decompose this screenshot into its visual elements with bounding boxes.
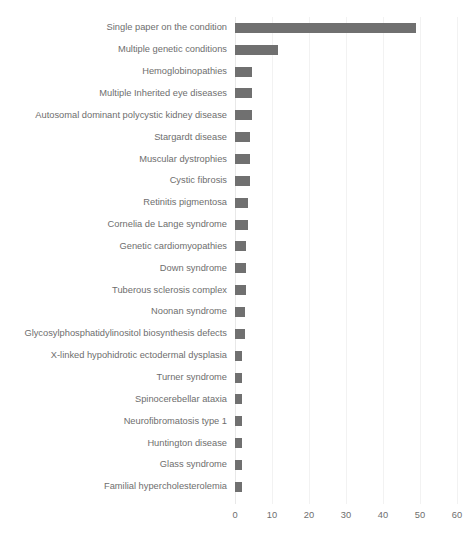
bar-row xyxy=(235,279,457,301)
category-label: Tuberous sclerosis complex xyxy=(0,285,227,296)
bar-row xyxy=(235,323,457,345)
x-tick-label: 60 xyxy=(452,510,462,520)
x-tick-label: 30 xyxy=(341,510,351,520)
bar-row xyxy=(235,388,457,410)
bar[interactable] xyxy=(235,482,242,492)
category-label: Spinocerebellar ataxia xyxy=(0,394,227,405)
category-label: Hemoglobinopathies xyxy=(0,66,227,77)
bar-row xyxy=(235,83,457,105)
bar-row xyxy=(235,345,457,367)
bar-row xyxy=(235,170,457,192)
bar-row xyxy=(235,39,457,61)
bar-row xyxy=(235,257,457,279)
bar[interactable] xyxy=(235,307,245,317)
bar[interactable] xyxy=(235,329,245,339)
category-label: Retinitis pigmentosa xyxy=(0,197,227,208)
bar[interactable] xyxy=(235,438,242,448)
x-tick-label: 0 xyxy=(232,510,237,520)
bar-row xyxy=(235,432,457,454)
bar-chart: Single paper on the conditionMultiple ge… xyxy=(0,0,470,549)
bar-row xyxy=(235,214,457,236)
bar[interactable] xyxy=(235,351,242,361)
bar-row xyxy=(235,454,457,476)
bar[interactable] xyxy=(235,176,250,186)
bar-row xyxy=(235,148,457,170)
bar[interactable] xyxy=(235,241,246,251)
category-label: Cornelia de Lange syndrome xyxy=(0,219,227,230)
category-label: Autosomal dominant polycystic kidney dis… xyxy=(0,110,227,121)
x-axis: 0102030405060 xyxy=(235,504,457,524)
bar-row xyxy=(235,410,457,432)
bar[interactable] xyxy=(235,132,250,142)
bar-row xyxy=(235,236,457,258)
category-label: Cystic fibrosis xyxy=(0,175,227,186)
bar-row xyxy=(235,61,457,83)
bar[interactable] xyxy=(235,45,278,55)
category-label: X-linked hypohidrotic ectodermal dysplas… xyxy=(0,350,227,361)
bar-row xyxy=(235,126,457,148)
bar-row xyxy=(235,192,457,214)
bar[interactable] xyxy=(235,460,242,470)
bar[interactable] xyxy=(235,416,242,426)
bar-row xyxy=(235,301,457,323)
category-label: Stargardt disease xyxy=(0,132,227,143)
category-label: Glycosylphosphatidylinositol biosynthesi… xyxy=(0,328,227,339)
category-label: Down syndrome xyxy=(0,263,227,274)
category-label: Neurofibromatosis type 1 xyxy=(0,416,227,427)
x-tick-label: 50 xyxy=(415,510,425,520)
category-label: Muscular dystrophies xyxy=(0,154,227,165)
category-label: Turner syndrome xyxy=(0,372,227,383)
bar[interactable] xyxy=(235,285,246,295)
category-label: Multiple Inherited eye diseases xyxy=(0,88,227,99)
bar-row xyxy=(235,104,457,126)
category-label: Single paper on the condition xyxy=(0,22,227,33)
bar[interactable] xyxy=(235,373,242,383)
gridline-60 xyxy=(457,17,458,504)
plot-area xyxy=(235,17,457,504)
bar-row xyxy=(235,17,457,39)
category-label: Familial hypercholesterolemia xyxy=(0,481,227,492)
category-label: Multiple genetic conditions xyxy=(0,44,227,55)
category-label: Genetic cardiomyopathies xyxy=(0,241,227,252)
bar[interactable] xyxy=(235,198,248,208)
bar[interactable] xyxy=(235,67,252,77)
bar-row xyxy=(235,367,457,389)
bar[interactable] xyxy=(235,263,246,273)
bar[interactable] xyxy=(235,23,416,33)
category-label: Huntington disease xyxy=(0,438,227,449)
bar[interactable] xyxy=(235,394,242,404)
bar[interactable] xyxy=(235,220,248,230)
bar-row xyxy=(235,476,457,498)
x-tick-label: 10 xyxy=(267,510,277,520)
x-tick-label: 40 xyxy=(378,510,388,520)
bar[interactable] xyxy=(235,154,250,164)
x-tick-label: 20 xyxy=(304,510,314,520)
category-label: Glass syndrome xyxy=(0,459,227,470)
bar[interactable] xyxy=(235,110,252,120)
bar[interactable] xyxy=(235,88,252,98)
bar-rows xyxy=(235,17,457,504)
category-label: Noonan syndrome xyxy=(0,306,227,317)
chart-title xyxy=(0,0,470,6)
